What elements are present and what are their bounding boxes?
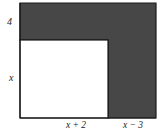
- label-inner-height: x: [9, 73, 13, 83]
- label-right-width: x − 3: [108, 121, 158, 131]
- unshaded-inner-rectangle: [20, 40, 108, 118]
- shaded-region-svg: [0, 0, 162, 137]
- label-top-band-height: 4: [7, 17, 12, 27]
- geometry-figure: 4 x x + 2 x − 3: [0, 0, 162, 137]
- label-inner-width: x + 2: [46, 121, 106, 131]
